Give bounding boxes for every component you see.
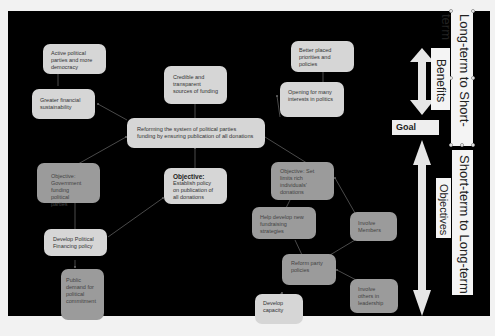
node-label: Involve Members — [358, 220, 381, 233]
node-goal-reform[interactable]: Reforming the system of political partie… — [127, 118, 265, 148]
resize-handle[interactable] — [471, 9, 475, 13]
node-label: Help develop new fundraising strategies — [260, 214, 304, 234]
node-obj-establish-policy[interactable]: Objective: Establish policy on publicati… — [164, 168, 227, 204]
resize-handle[interactable] — [471, 143, 475, 147]
node-label: Objective: Government funding political … — [51, 173, 81, 207]
node-better-priorities[interactable]: Better placed priorities and policies — [291, 41, 354, 72]
resize-handle[interactable] — [449, 143, 453, 147]
label-objectives: Objectives — [436, 178, 451, 238]
node-opening-interests[interactable]: Opening for many interests in politics — [280, 82, 344, 117]
node-label: Greater financial sustainability — [40, 97, 80, 110]
node-label: Credible and transparent sources of fund… — [173, 74, 218, 94]
node-credible-funding[interactable]: Credible and transparent sources of fund… — [164, 66, 227, 104]
node-label: Develop Political Financing policy — [53, 236, 94, 249]
node-label: Active political parties and more democr… — [51, 50, 92, 70]
node-help-fundraising[interactable]: Help develop new fundraising strategies — [252, 207, 316, 239]
label-benefits: Benefits — [431, 48, 450, 110]
node-develop-capacity[interactable]: Develop capacity — [255, 294, 303, 324]
node-obj-government-funding[interactable]: Objective: Government funding political … — [37, 163, 100, 203]
node-label: Reforming the system of political partie… — [137, 126, 253, 139]
node-public-demand[interactable]: Public demand for political commitment — [61, 269, 104, 320]
resize-handle[interactable] — [460, 143, 464, 147]
node-label: Develop capacity — [263, 300, 283, 313]
node-active-parties[interactable]: Active political parties and more democr… — [43, 44, 106, 74]
node-develop-financing-policy[interactable]: Develop Political Financing policy — [44, 229, 107, 256]
node-label: Objective: Set limits rich individuals' … — [280, 168, 314, 195]
label-goal: Goal — [392, 120, 439, 135]
node-reform-party-policies[interactable]: Reform party policies — [282, 254, 336, 285]
label-short-to-long-term: Short-term to Long-term — [452, 150, 473, 295]
node-label: Involve others in leadership — [358, 286, 383, 306]
node-involve-others[interactable]: Involve others in leadership — [350, 279, 398, 313]
node-obj-set-limits[interactable]: Objective: Set limits rich individuals' … — [271, 162, 334, 200]
node-label: Establish policy on publication of all d… — [173, 180, 213, 200]
node-label: Better placed priorities and policies — [299, 47, 331, 67]
node-title: Objective: — [173, 173, 218, 180]
resize-handle[interactable] — [471, 76, 475, 80]
node-label: Public demand for political commitment — [66, 277, 96, 304]
label-long-to-short-term[interactable]: Long-term to Short-term — [451, 11, 473, 146]
node-involve-members[interactable]: Involve Members — [350, 212, 397, 241]
node-label: Reform party policies — [291, 260, 323, 273]
node-label: Opening for many interests in politics — [288, 89, 333, 102]
resize-handle[interactable] — [449, 9, 453, 13]
node-greater-sustainability[interactable]: Greater financial sustainability — [32, 89, 95, 119]
